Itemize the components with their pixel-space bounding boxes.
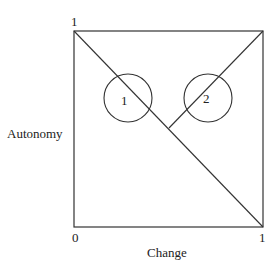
origin-label: 0 [72, 231, 79, 245]
x-max-label: 1 [259, 231, 266, 245]
y-max-label: 1 [71, 15, 78, 29]
region-label-1: 1 [121, 94, 128, 108]
x-axis-label: Change [147, 246, 187, 260]
autonomy-change-diagram: 1 2 1 0 1 Autonomy Change [0, 0, 280, 267]
partial-diagonal [169, 31, 263, 128]
region-circle-1 [104, 74, 152, 122]
y-axis-label: Autonomy [7, 127, 63, 141]
region-label-2: 2 [203, 92, 210, 106]
